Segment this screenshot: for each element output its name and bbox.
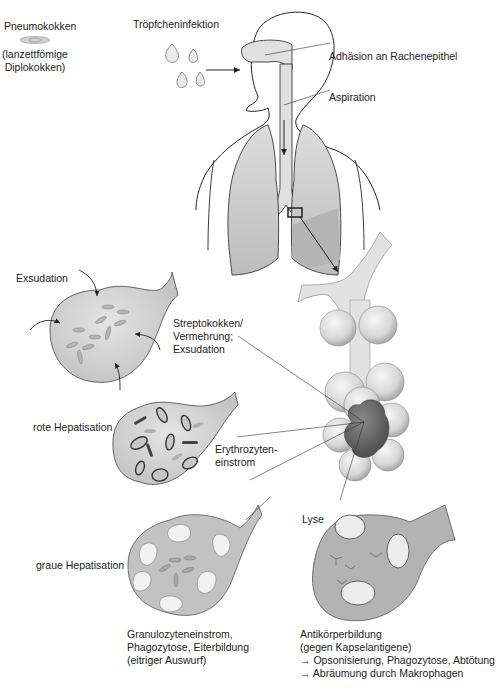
aspiration-label: Aspiration xyxy=(329,91,376,104)
granulozyten-label-2: Phagozytose, Eiterbildung xyxy=(127,641,249,654)
granulozyten-label-1: Granulozyteneinstrom, xyxy=(127,628,233,641)
rote-hepatisation-label: rote Hepatisation xyxy=(33,421,112,434)
troepfcheninfektion-label: Tröpfcheninfektion xyxy=(133,18,219,31)
lyse-label: Lyse xyxy=(302,513,324,526)
antikoerper-label-4: → Abräumung durch Makrophagen xyxy=(300,667,463,680)
alveolus-red-hepatisation xyxy=(113,392,238,484)
pneumokokken-sub1: (lanzettfömige xyxy=(0,48,70,61)
streptokokken-label-2: Vermehrung; xyxy=(173,330,233,343)
antikoerper-label-2: (gegen Kapselantigene) xyxy=(300,641,412,654)
antikoerper-label-1: Antikörperbildung xyxy=(300,628,382,641)
diplococcus-icon xyxy=(20,37,50,44)
pneumonia-diagram-art xyxy=(0,0,503,690)
alveolus-exsudation xyxy=(30,270,178,390)
streptokokken-label-3: Exsudation xyxy=(173,343,225,356)
erythrozyten-label-2: einstrom xyxy=(215,456,255,469)
pneumokokken-sub2: Diplokokken) xyxy=(0,61,70,74)
exsudation-label: Exsudation xyxy=(16,272,68,285)
streptokokken-label-1: Streptokokken/ xyxy=(173,317,243,330)
graue-hepatisation-label: graue Hepatisation xyxy=(36,559,124,572)
erythrozyten-label-1: Erythrozyten- xyxy=(215,443,277,456)
granulozyten-label-3: (eitriger Auswurf) xyxy=(127,654,206,667)
pneumokokken-label: Pneumokokken xyxy=(4,20,66,33)
alveolus-grey-hepatisation xyxy=(128,505,262,615)
adhaesion-label: Adhäsion an Rachenepithel xyxy=(329,50,457,63)
antikoerper-label-3: → Opsonisierung, Phagozytose, Abtötung xyxy=(300,654,495,667)
droplets-icon xyxy=(166,44,205,88)
alveolus-lysis xyxy=(312,505,455,621)
